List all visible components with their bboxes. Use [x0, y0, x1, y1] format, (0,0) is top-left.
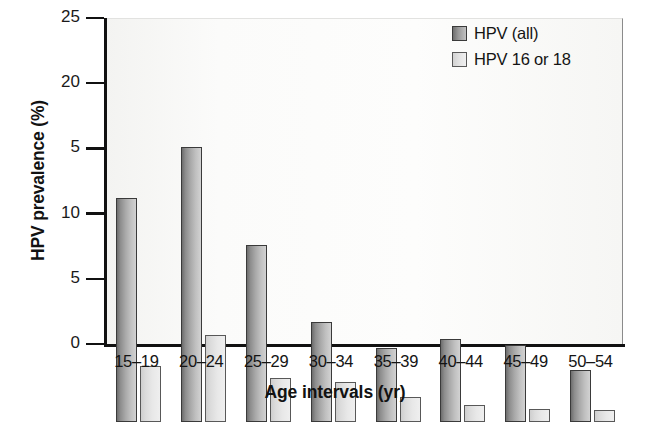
y-axis-tick-label: 25: [32, 7, 80, 27]
y-axis-tick: [86, 82, 104, 85]
bar: [594, 410, 615, 422]
x-axis-title: Age intervals (yr): [0, 382, 670, 403]
legend-label: HPV (all): [474, 24, 538, 43]
bar-group: [234, 96, 299, 422]
y-axis-tick-label: 5: [32, 137, 80, 157]
legend-label: HPV 16 or 18: [474, 50, 571, 69]
bar: [205, 335, 226, 422]
legend-item: HPV (all): [452, 24, 571, 43]
y-axis-tick: [86, 212, 104, 215]
y-axis-tick-label: 0: [32, 333, 80, 353]
x-axis-category-label: 25–29: [229, 352, 303, 371]
legend-swatch-icon: [452, 26, 467, 41]
bar-group: [169, 96, 234, 422]
chart-legend: HPV (all)HPV 16 or 18: [452, 24, 571, 69]
bar-group: [558, 96, 623, 422]
hpv-prevalence-bar-chart: HPV prevalence (%) 252051050 15–1920–242…: [0, 0, 670, 422]
y-axis-tick: [86, 147, 104, 150]
bar-group: [493, 96, 558, 422]
x-axis-category-label: 40–44: [424, 352, 498, 371]
bar: [529, 409, 550, 422]
y-axis-tick-label: 10: [32, 203, 80, 223]
x-axis-category-label: 45–49: [489, 352, 563, 371]
bar-group: [364, 96, 429, 422]
legend-item: HPV 16 or 18: [452, 50, 571, 69]
x-axis-category-label: 30–34: [294, 352, 368, 371]
y-axis-tick: [86, 278, 104, 281]
y-axis-tick: [86, 343, 104, 346]
y-axis-tick-label: 5: [32, 268, 80, 288]
x-axis-category-label: 15–19: [99, 352, 173, 371]
bar-group: [299, 96, 364, 422]
bar-group: [428, 96, 493, 422]
legend-swatch-icon: [452, 52, 467, 67]
y-axis-tick-label: 20: [32, 72, 80, 92]
x-axis-category-label: 35–39: [359, 352, 433, 371]
bar: [464, 405, 485, 422]
x-axis-category-label: 50–54: [554, 352, 628, 371]
y-axis-tick-labels: 252051050: [22, 0, 80, 422]
y-axis-tick: [86, 17, 104, 20]
bar: [181, 147, 202, 422]
x-axis-category-label: 20–24: [164, 352, 238, 371]
bar: [311, 322, 332, 422]
bar-group: [104, 96, 169, 422]
